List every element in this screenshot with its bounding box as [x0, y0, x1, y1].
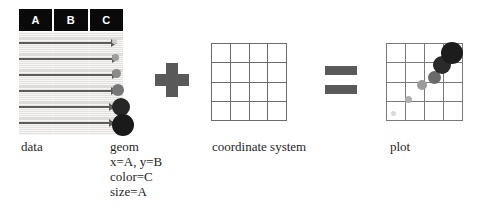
plot-data-points [386, 43, 463, 121]
mapping-arrow [19, 118, 116, 128]
arrow-shaft [19, 122, 109, 124]
arrow-shaft [19, 106, 109, 108]
caption-data: data [21, 139, 43, 155]
geom-dot [112, 39, 117, 44]
mapping-arrow [19, 38, 118, 48]
grid-line-horizontal [211, 82, 287, 83]
equals-bottom-bar [325, 85, 357, 94]
geom-spec-line-size: size=A [110, 184, 162, 199]
plot-data-point [391, 111, 396, 116]
coordinate-system-grid [211, 43, 287, 121]
grid-line-horizontal [211, 120, 287, 121]
mapping-arrow [19, 102, 116, 112]
caption-coordinate-system: coordinate system [212, 139, 306, 155]
geom-dot [112, 69, 121, 78]
mapping-arrow [19, 86, 118, 96]
equals-top-bar [325, 66, 357, 75]
column-header-b: B [54, 9, 87, 31]
equals-operator-icon [325, 66, 357, 94]
geom-dot [112, 54, 119, 61]
plus-vertical-bar [166, 63, 178, 97]
mapping-arrow [19, 70, 119, 80]
column-header-c: C [90, 9, 123, 31]
geom-dot [112, 114, 134, 136]
mapping-arrow [19, 54, 119, 64]
arrow-shaft [19, 58, 112, 60]
geom-dot-legend [108, 32, 158, 140]
plot-data-point [441, 42, 463, 64]
grid-line-horizontal [211, 43, 287, 44]
geom-spec-line-color: color=C [110, 169, 162, 184]
arrow-shaft [19, 90, 111, 92]
geom-spec-line-xy: x=A, y=B [110, 154, 162, 169]
grid-line-horizontal [211, 101, 287, 102]
data-table-header: A B C [19, 9, 123, 31]
column-header-a: A [19, 9, 52, 31]
figure-canvas: A B C data geom coordinate system plot x… [0, 0, 479, 210]
caption-geom: geom [110, 139, 139, 155]
plus-operator-icon [155, 63, 189, 97]
grid-line-horizontal [211, 62, 287, 63]
plot-data-point [405, 96, 412, 103]
arrow-shaft [19, 42, 111, 44]
caption-plot: plot [390, 139, 410, 155]
arrow-shaft [19, 74, 112, 76]
geom-specification: x=A, y=B color=C size=A [110, 154, 162, 199]
geom-dot [112, 84, 124, 96]
plot-data-point [417, 80, 427, 90]
